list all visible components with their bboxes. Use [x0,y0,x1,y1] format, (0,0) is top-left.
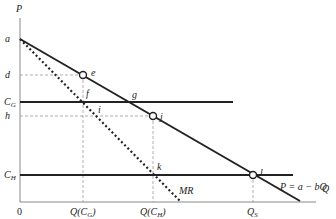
mr-curve [20,39,180,201]
quantity-qh-label: Q(CH) [140,206,166,219]
origin-label: 0 [17,206,22,217]
point-j-marker [150,113,157,120]
demand-curve-label: P = a − bQ [279,181,327,192]
price-h-label: h [5,110,10,121]
price-ch-label: CH [4,169,17,182]
point-e-label: e [91,67,96,78]
point-i-label: i [98,104,101,115]
price-d-label: d [5,69,11,80]
point-l-label: l [260,167,263,178]
y-axis-label: P [15,3,22,14]
point-f-label: f [86,88,90,99]
quantity-qs-label: QS [247,206,258,219]
point-k-label: k [157,161,162,172]
point-g-label: g [132,89,137,100]
price-cg-label: CG [4,96,16,109]
price-a-label: a [5,33,10,44]
point-e-marker [80,72,87,79]
quantity-qg-label: Q(CG) [70,206,96,219]
point-l-marker [250,172,257,179]
mr-curve-label: MR [178,185,193,196]
monopoly-pricing-diagram: P Q 0 a d CG h CH Q(CG) Q(CH) QS e f g i… [0,0,336,219]
